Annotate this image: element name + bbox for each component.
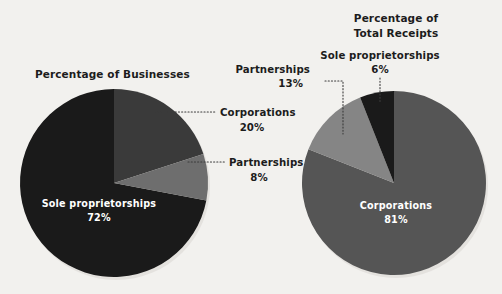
right-chart-title-line2: Total Receipts: [354, 27, 439, 39]
pie-charts-figure: Percentage of Businesses Corporations 20…: [0, 0, 502, 294]
figure-canvas: Percentage of Businesses Corporations 20…: [0, 0, 502, 294]
right-pie-chart: Percentage of Total Receipts Sole propri…: [235, 12, 488, 278]
left-label-partnerships-name: Partnerships: [229, 157, 304, 168]
left-label-corporations-name: Corporations: [220, 107, 296, 118]
left-chart-title: Percentage of Businesses: [35, 68, 190, 80]
right-label-corporations-name: Corporations: [360, 200, 433, 211]
right-label-sole-value: 6%: [371, 64, 389, 75]
left-label-corporations-value: 20%: [240, 122, 265, 133]
left-label-sole-value: 72%: [87, 212, 111, 223]
right-label-sole-name: Sole proprietorships: [320, 50, 439, 61]
left-pie-chart: Percentage of Businesses Corporations 20…: [20, 68, 304, 280]
left-label-partnerships-value: 8%: [250, 172, 268, 183]
right-chart-title-line1: Percentage of: [354, 12, 439, 24]
left-label-sole-name: Sole proprietorships: [42, 198, 157, 209]
right-label-partnerships-value: 13%: [278, 78, 303, 89]
right-label-partnerships-name: Partnerships: [235, 64, 310, 75]
right-label-corporations-value: 81%: [384, 214, 408, 225]
